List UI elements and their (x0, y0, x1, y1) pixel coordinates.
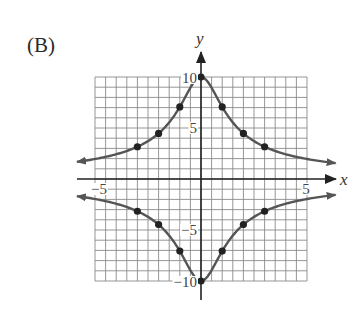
data-point (155, 130, 162, 137)
data-point (261, 208, 268, 215)
data-point (134, 143, 141, 150)
y-tick-label: 5 (190, 120, 198, 136)
data-point (197, 73, 204, 80)
data-point (134, 208, 141, 215)
y-tick-label: −10 (174, 274, 197, 290)
data-point (240, 130, 247, 137)
x-tick-label: 5 (302, 181, 310, 197)
x-tick-label: −5 (91, 181, 107, 197)
data-point (219, 248, 226, 255)
x-axis-label: x (339, 170, 348, 189)
y-axis-label: y (194, 29, 204, 48)
curve-lower-right (201, 195, 336, 281)
data-point (219, 103, 226, 110)
data-point (261, 143, 268, 150)
data-point (240, 221, 247, 228)
data-point (197, 277, 204, 284)
data-point (176, 248, 183, 255)
y-tick-label: 10 (182, 70, 197, 86)
data-point (155, 221, 162, 228)
function-graph: xy −55105−5−10 (0, 0, 362, 316)
curve-upper-right (201, 77, 336, 163)
y-tick-label: −5 (181, 222, 197, 238)
data-point (176, 103, 183, 110)
